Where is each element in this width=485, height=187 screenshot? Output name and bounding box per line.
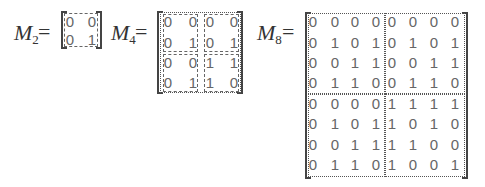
m8-cell: 0 — [369, 75, 383, 91]
m8-cell: 0 — [306, 157, 320, 173]
m4-cell: 0 — [161, 75, 175, 91]
m8-cell: 1 — [427, 116, 441, 132]
m4-cell: 1 — [186, 35, 200, 51]
m8-cell: 0 — [427, 14, 441, 30]
m4-cell: 1 — [227, 55, 241, 71]
m8-cell: 1 — [427, 96, 441, 112]
m8-cell: 1 — [448, 157, 462, 173]
m8-cell: 0 — [328, 137, 342, 153]
m8-cell: 1 — [369, 35, 383, 51]
m8-cell: 0 — [306, 137, 320, 153]
m8-equals: = — [282, 19, 294, 45]
m8-cell: 0 — [348, 14, 362, 30]
m8-cell: 1 — [427, 55, 441, 71]
m8-cell: 0 — [385, 55, 399, 71]
m8-cell: 0 — [328, 55, 342, 71]
m8-cell: 0 — [369, 96, 383, 112]
m8-cell: 0 — [427, 157, 441, 173]
m4-cell: 0 — [161, 14, 175, 30]
m8-cell: 1 — [328, 75, 342, 91]
m8-cell: 1 — [328, 157, 342, 173]
m8-cell: 1 — [448, 55, 462, 71]
m8-cell: 0 — [448, 116, 462, 132]
m8-cell: 1 — [348, 157, 362, 173]
m2-cell: 0 — [63, 32, 77, 48]
m8-cell: 1 — [427, 75, 441, 91]
m8-cell: 1 — [406, 35, 420, 51]
m8-cell: 1 — [328, 35, 342, 51]
m4-label: M4 — [111, 20, 136, 48]
m8-cell: 1 — [369, 116, 383, 132]
m8-cell: 1 — [385, 96, 399, 112]
m8-cell: 0 — [406, 14, 420, 30]
m8-cell: 0 — [406, 157, 420, 173]
m4-base: M — [111, 20, 129, 45]
m4-cell: 0 — [227, 14, 241, 30]
m4-equals: = — [135, 19, 147, 45]
m8-cell: 1 — [348, 75, 362, 91]
m2-equals: = — [38, 19, 50, 45]
m4-cell: 0 — [186, 14, 200, 30]
m8-cell: 1 — [369, 137, 383, 153]
m8-subscript: 8 — [275, 32, 282, 47]
m8-cell: 0 — [306, 116, 320, 132]
m8-cell: 1 — [385, 137, 399, 153]
m2-cell: 1 — [85, 32, 99, 48]
m8-cell: 1 — [406, 96, 420, 112]
m8-label: M8 — [257, 20, 282, 48]
m2-cell: 0 — [63, 14, 77, 30]
m8-cell: 1 — [328, 116, 342, 132]
m8-cell: 0 — [306, 96, 320, 112]
m8-cell: 1 — [348, 55, 362, 71]
m4-cell: 0 — [203, 35, 217, 51]
m8-cell: 0 — [348, 35, 362, 51]
m8-cell: 0 — [328, 96, 342, 112]
m8-cell: 0 — [306, 55, 320, 71]
m8-cell: 0 — [406, 55, 420, 71]
m8-base: M — [257, 20, 275, 45]
m8-cell: 1 — [406, 137, 420, 153]
m4-cell: 0 — [227, 75, 241, 91]
m8-cell: 0 — [348, 96, 362, 112]
m4-cell: 0 — [186, 55, 200, 71]
m4-cell: 0 — [161, 35, 175, 51]
m8-cell: 0 — [385, 14, 399, 30]
m8-cell: 0 — [306, 14, 320, 30]
m8-cell: 1 — [385, 157, 399, 173]
m8-cell: 0 — [369, 14, 383, 30]
m4-cell: 0 — [161, 55, 175, 71]
m8-cell: 0 — [306, 35, 320, 51]
m4-cell: 1 — [227, 35, 241, 51]
m4-cell: 1 — [186, 75, 200, 91]
m4-cell: 0 — [203, 14, 217, 30]
m8-cell: 0 — [448, 75, 462, 91]
m8-cell: 0 — [306, 75, 320, 91]
m8-cell: 1 — [348, 137, 362, 153]
m8-cell: 1 — [406, 75, 420, 91]
m8-cell: 0 — [427, 35, 441, 51]
m2-base: M — [14, 20, 32, 45]
m8-cell: 0 — [369, 157, 383, 173]
m8-cell: 0 — [348, 116, 362, 132]
m8-cell: 1 — [385, 116, 399, 132]
m4-cell: 1 — [203, 55, 217, 71]
m8-cell: 0 — [448, 137, 462, 153]
m8-cell: 0 — [385, 75, 399, 91]
m8-cell: 1 — [369, 55, 383, 71]
m8-cell: 0 — [406, 116, 420, 132]
m2-label: M2 — [14, 20, 39, 48]
m8-cell: 0 — [427, 137, 441, 153]
m8-cell: 1 — [448, 96, 462, 112]
m8-cell: 0 — [448, 14, 462, 30]
m2-cell: 0 — [85, 14, 99, 30]
m8-cell: 1 — [448, 35, 462, 51]
m8-cell: 0 — [385, 35, 399, 51]
m8-cell: 0 — [328, 14, 342, 30]
m4-cell: 1 — [203, 75, 217, 91]
